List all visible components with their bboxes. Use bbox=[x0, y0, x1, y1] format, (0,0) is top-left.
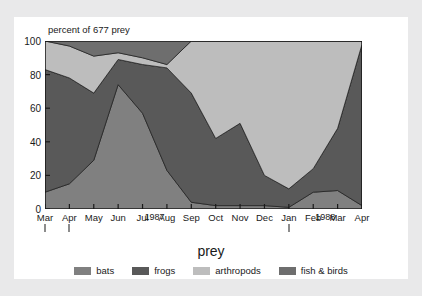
x-tick-label: Nov bbox=[232, 212, 249, 223]
y-tick-label: 20 bbox=[30, 170, 41, 181]
chart-title: percent of 677 prey bbox=[48, 24, 130, 35]
plot-area bbox=[45, 41, 362, 209]
x-tick-label: Oct bbox=[208, 212, 223, 223]
legend-swatch bbox=[132, 267, 149, 275]
year-label: 1988 bbox=[315, 212, 335, 222]
year-boundary-tick bbox=[69, 224, 70, 232]
year-boundary-tick bbox=[45, 224, 46, 232]
x-axis-title: prey bbox=[14, 243, 408, 259]
legend-swatch bbox=[279, 267, 296, 275]
x-tick-label: Apr bbox=[62, 212, 77, 223]
year-boundary-tick bbox=[288, 224, 289, 232]
y-axis-labels: 020406080100 bbox=[14, 41, 41, 209]
legend-item[interactable]: frogs bbox=[132, 265, 175, 276]
legend-label: frogs bbox=[154, 265, 175, 276]
x-tick-label: Sep bbox=[183, 212, 200, 223]
stacked-area-svg bbox=[45, 41, 362, 209]
chart-figure: percent of 677 prey 020406080100 MarAprM… bbox=[14, 17, 408, 279]
legend-label: fish & birds bbox=[301, 265, 348, 276]
legend-label: bats bbox=[96, 265, 114, 276]
legend-label: arthropods bbox=[215, 265, 260, 276]
x-tick-label: Jun bbox=[110, 212, 125, 223]
area-bands bbox=[45, 41, 362, 209]
chart-legend: batsfrogsarthropodsfish & birds bbox=[14, 265, 408, 276]
legend-item[interactable]: fish & birds bbox=[279, 265, 348, 276]
legend-item[interactable]: bats bbox=[74, 265, 114, 276]
y-tick-label: 80 bbox=[30, 69, 41, 80]
year-label: 1987 bbox=[145, 212, 165, 222]
x-tick-label: Jan bbox=[281, 212, 296, 223]
x-tick-label: Dec bbox=[256, 212, 273, 223]
y-tick-label: 60 bbox=[30, 103, 41, 114]
x-tick-label: Apr bbox=[355, 212, 370, 223]
y-tick-label: 100 bbox=[24, 36, 41, 47]
legend-swatch bbox=[193, 267, 210, 275]
x-tick-label: May bbox=[85, 212, 103, 223]
y-tick-label: 40 bbox=[30, 136, 41, 147]
legend-item[interactable]: arthropods bbox=[193, 265, 260, 276]
x-tick-label: Mar bbox=[37, 212, 53, 223]
legend-swatch bbox=[74, 267, 91, 275]
